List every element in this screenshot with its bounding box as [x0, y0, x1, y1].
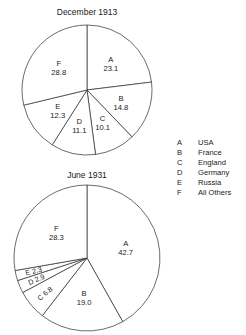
legend-name-e: Russia: [198, 178, 222, 187]
pie-slice-key-f: F: [54, 224, 59, 233]
pie-slice-key-e: E: [55, 102, 60, 111]
legend-name-c: England: [198, 158, 226, 167]
legend-name-b: France: [198, 148, 222, 157]
legend-key-d: D: [177, 168, 183, 177]
pie-slice-value-a: 23.1: [103, 64, 118, 73]
chart-title-top: December 1913: [57, 7, 118, 17]
legend-name-f: All Others: [198, 188, 232, 197]
pie-slice-key-d: D: [77, 117, 83, 126]
pie-slice-key-c: C: [100, 114, 106, 123]
pie-slice-key-b: B: [82, 289, 87, 298]
pie-slices-top: [22, 25, 152, 155]
pie-slice-key-b: B: [118, 94, 123, 103]
pie-slice-value-c: 10.1: [95, 123, 110, 132]
legend-name-d: Germany: [198, 168, 229, 177]
legend-key-e: E: [177, 178, 182, 187]
pie-slice-value-f: 28.3: [49, 233, 64, 242]
pie-slice-value-b: 19.0: [77, 298, 92, 307]
chart-title-bottom: June 1931: [67, 170, 107, 180]
pie-chart-figure: December 1913 A23.1B14.8C10.1D11.1E12.3F…: [0, 0, 246, 335]
legend-name-a: USA: [198, 138, 215, 147]
pie-slice-key-f: F: [56, 59, 61, 68]
legend-key-b: B: [177, 148, 182, 157]
pie-slice-value-d: 11.1: [72, 126, 86, 135]
pie-slices-bottom: [14, 185, 160, 331]
legend-key-f: F: [177, 188, 182, 197]
pie-slice-value-b: 14.8: [114, 103, 129, 112]
pie-slice-value-f: 28.8: [51, 68, 66, 77]
legend-key-c: C: [177, 158, 183, 167]
pie-slice-value-e: 12.3: [50, 111, 65, 120]
pie-slice-value-a: 42.7: [118, 248, 133, 257]
